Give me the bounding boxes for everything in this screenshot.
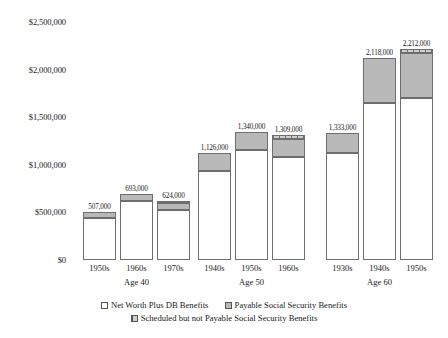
bar-column[interactable]	[83, 212, 116, 260]
x-axis-category-label: 1950s	[395, 263, 439, 273]
legend-row-2: Scheduled but not Payable Social Securit…	[0, 312, 448, 325]
x-axis-group-label: Age 60	[320, 277, 440, 287]
bar-column[interactable]	[326, 133, 359, 260]
bar-value-label: 2,212,000	[393, 40, 441, 48]
bar-segment-payable	[400, 53, 433, 98]
bar-column[interactable]	[400, 49, 433, 260]
bar-column[interactable]	[157, 201, 190, 260]
bar-column[interactable]	[120, 194, 153, 260]
bar-segment-net-worth	[272, 157, 305, 260]
bar-segment-net-worth	[83, 218, 116, 260]
legend-label-scheduled: Scheduled but not Payable Social Securit…	[141, 313, 318, 323]
bar-column[interactable]	[272, 135, 305, 260]
bar-column[interactable]	[198, 153, 231, 260]
bar-segment-net-worth	[120, 201, 153, 260]
x-axis-category-label: 1960s	[267, 263, 311, 273]
legend-swatch-scheduled-icon	[131, 315, 138, 322]
bar-value-label: 624,000	[150, 192, 198, 200]
x-axis-category-label: 1970s	[152, 263, 196, 273]
legend-swatch-net-worth-icon	[101, 302, 108, 309]
bar-segment-net-worth	[235, 150, 268, 260]
legend-row-1: Net Worth Plus DB Benefits Payable Socia…	[0, 299, 448, 312]
legend-swatch-payable-icon	[225, 302, 232, 309]
bar-segment-scheduled	[157, 201, 190, 203]
legend-item-net-worth[interactable]: Net Worth Plus DB Benefits	[101, 299, 209, 312]
bar-segment-payable	[272, 139, 305, 157]
bar-value-label: 1,309,000	[265, 126, 313, 134]
legend-label-net-worth: Net Worth Plus DB Benefits	[111, 300, 209, 310]
bar-segment-net-worth	[326, 153, 359, 260]
bar-segment-payable	[235, 132, 268, 149]
x-axis-group-label: Age 50	[192, 277, 312, 287]
bar-column[interactable]	[363, 58, 396, 260]
bar-column[interactable]	[235, 132, 268, 260]
bar-value-label: 2,118,000	[356, 49, 404, 57]
bar-segment-payable	[83, 212, 116, 218]
bar-segment-net-worth	[198, 171, 231, 260]
bar-segment-payable	[120, 194, 153, 201]
bar-value-label: 1,333,000	[319, 124, 367, 132]
legend-item-payable[interactable]: Payable Social Security Benefits	[225, 299, 347, 312]
chart-legend: Net Worth Plus DB Benefits Payable Socia…	[0, 299, 448, 325]
bar-segment-payable	[363, 58, 396, 103]
bar-segment-scheduled	[400, 49, 433, 53]
legend-item-scheduled[interactable]: Scheduled but not Payable Social Securit…	[131, 312, 318, 325]
bar-segment-net-worth	[400, 98, 433, 260]
bar-segment-scheduled	[272, 135, 305, 138]
bar-segment-net-worth	[157, 210, 190, 260]
chart-root: $2,500,000 $2,000,000 $1,500,000 $1,000,…	[0, 0, 448, 338]
plot-area: 507,0001950s693,0001960s624,0001970sAge …	[0, 0, 448, 338]
bar-segment-net-worth	[363, 103, 396, 260]
bar-value-label: 1,126,000	[191, 144, 239, 152]
bar-segment-payable	[157, 203, 190, 210]
bar-segment-payable	[198, 153, 231, 171]
legend-label-payable: Payable Social Security Benefits	[235, 300, 347, 310]
x-axis-group-label: Age 40	[77, 277, 197, 287]
bar-segment-payable	[326, 133, 359, 153]
bar-value-label: 507,000	[76, 203, 124, 211]
